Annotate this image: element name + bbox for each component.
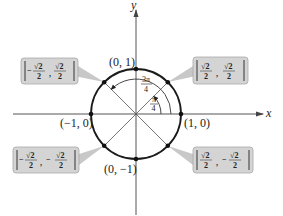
svg-text:√2: √2 [56, 151, 64, 160]
angle-label-3pi-over-4: 3π 4 [141, 75, 152, 94]
point-q4 [166, 144, 171, 149]
label-0-neg1: (0, −1) [104, 162, 137, 176]
svg-text:,: , [216, 158, 218, 167]
svg-text:√2: √2 [201, 151, 209, 160]
svg-text:2: 2 [37, 72, 41, 81]
svg-text:√2: √2 [55, 62, 63, 71]
point-q2 [102, 80, 107, 85]
svg-text:4: 4 [144, 85, 148, 94]
angle-label-pi-over-4: π 4 [150, 95, 158, 113]
svg-text:2: 2 [59, 161, 63, 170]
point-0-neg1 [134, 157, 139, 162]
x-axis-label: x [265, 106, 272, 120]
svg-text:−: − [222, 155, 227, 164]
callout-q4: √2 2 , − √2 2 [193, 147, 253, 173]
svg-text:2: 2 [29, 161, 33, 170]
label-1-0: (1, 0) [184, 116, 210, 130]
svg-text:√2: √2 [26, 151, 34, 160]
point-1-0 [179, 112, 184, 117]
svg-text:2: 2 [204, 161, 208, 170]
svg-text:−: − [46, 155, 51, 164]
unit-circle-diagram: x y π 4 3π 4 (0, 1) (−1, 0) (1, 0) (0, −… [0, 0, 283, 216]
svg-text:2: 2 [233, 161, 237, 170]
point-q3 [102, 144, 107, 149]
svg-text:,: , [49, 69, 51, 78]
svg-text:,: , [216, 69, 218, 78]
callout-q3: − √2 2 , − √2 2 [13, 147, 79, 173]
svg-text:√2: √2 [201, 62, 209, 71]
label-neg1-0: (−1, 0) [60, 116, 93, 130]
svg-text:√2: √2 [224, 62, 232, 71]
y-axis-label: y [130, 0, 137, 12]
point-q1 [166, 80, 171, 85]
svg-text:2: 2 [227, 72, 231, 81]
svg-text:−: − [19, 155, 24, 164]
svg-text:2: 2 [204, 72, 208, 81]
callout-q1: √2 2 , √2 2 [193, 57, 248, 84]
svg-text:3π: 3π [142, 75, 150, 84]
svg-text:2: 2 [58, 72, 62, 81]
svg-text:√2: √2 [230, 151, 238, 160]
svg-text:4: 4 [152, 104, 156, 113]
svg-text:,: , [40, 158, 42, 167]
svg-text:π: π [152, 95, 156, 104]
callout-q2: − √2 2 , √2 2 [21, 58, 78, 84]
svg-text:√2: √2 [34, 62, 42, 71]
svg-text:−: − [27, 66, 32, 75]
label-0-1: (0, 1) [109, 55, 135, 69]
